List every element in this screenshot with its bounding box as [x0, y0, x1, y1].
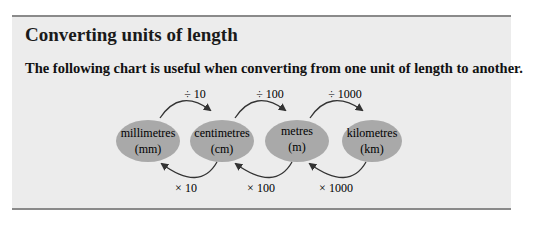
- unit-conversion-diagram: ÷ 10 ÷ 100 ÷ 1000 millimetres (mm) centi…: [0, 0, 539, 226]
- multiply-arrows: × 10 × 100 × 1000: [162, 162, 366, 195]
- divide-arrows: ÷ 10 ÷ 100 ÷ 1000: [160, 87, 362, 118]
- multiply-label: × 100: [247, 181, 275, 195]
- unit-name: metres: [281, 124, 313, 138]
- arrow-cm-to-m: [235, 101, 285, 118]
- unit-abbr: (mm): [135, 142, 162, 156]
- unit-name: centimetres: [194, 126, 250, 140]
- unit-abbr: (m): [288, 140, 305, 154]
- arrow-km-to-m: [310, 162, 366, 178]
- arrow-m-to-km: [310, 101, 362, 118]
- multiply-label: × 10: [175, 181, 197, 195]
- unit-name: millimetres: [121, 126, 176, 140]
- unit-name: kilometres: [347, 126, 398, 140]
- arrow-cm-to-mm: [162, 162, 217, 178]
- unit-abbr: (cm): [211, 142, 234, 156]
- arrow-m-to-cm: [236, 162, 292, 178]
- unit-nodes: millimetres (mm) centimetres (cm) metres…: [116, 120, 402, 162]
- arrow-mm-to-cm: [160, 101, 210, 118]
- multiply-label: × 1000: [319, 181, 353, 195]
- divide-label: ÷ 1000: [328, 87, 362, 101]
- unit-abbr: (km): [360, 142, 383, 156]
- divide-label: ÷ 100: [256, 87, 284, 101]
- divide-label: ÷ 10: [184, 87, 206, 101]
